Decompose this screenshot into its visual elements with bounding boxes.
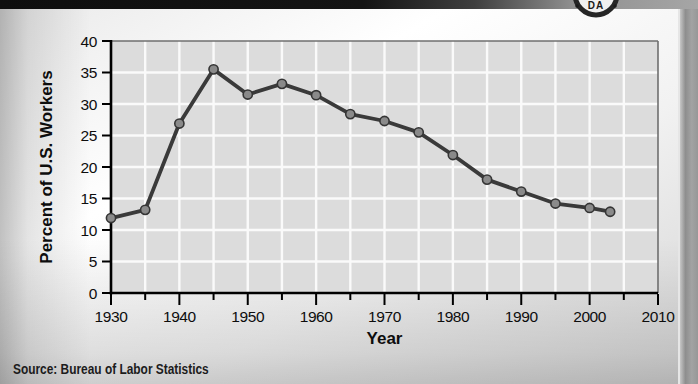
- x-tick-label: 1990: [505, 308, 539, 325]
- data-point: [312, 91, 321, 100]
- x-tick-label: 1940: [163, 308, 197, 325]
- x-tick-label: 2010: [642, 308, 676, 325]
- data-point: [585, 203, 594, 212]
- data-point: [606, 207, 615, 216]
- y-tick-label: 0: [89, 285, 98, 302]
- y-tick-label: 35: [81, 64, 97, 81]
- data-point: [414, 128, 423, 137]
- x-tick-label: 2000: [573, 308, 607, 325]
- data-point: [448, 150, 457, 159]
- y-tick-label: 20: [81, 159, 98, 176]
- data-point: [106, 213, 115, 222]
- union-membership-line-chart: 0510152025303540193019401950196019701980…: [0, 0, 698, 384]
- badge-dot-right: [613, 4, 616, 7]
- source-note: Source: Bureau of Labor Statistics: [13, 361, 209, 377]
- y-tick-label: 40: [81, 33, 98, 50]
- x-tick-label: 1980: [436, 308, 470, 325]
- badge-label: DA: [588, 0, 604, 11]
- data-stamp-badge: DA: [563, 0, 629, 26]
- x-tick-label: 1930: [95, 308, 129, 325]
- data-point: [243, 90, 252, 99]
- data-point: [346, 109, 355, 118]
- data-point: [141, 205, 150, 214]
- data-point: [517, 187, 526, 196]
- data-point: [209, 65, 218, 74]
- y-tick-label: 10: [81, 222, 98, 239]
- x-tick-label: 1960: [300, 308, 334, 325]
- x-tick-label: 1950: [231, 308, 265, 325]
- data-point: [551, 199, 560, 208]
- y-tick-label: 25: [81, 127, 97, 144]
- badge-dot-left: [575, 4, 578, 7]
- chart-figure-card: DA 0510152025303540193019401950196019701…: [0, 0, 698, 384]
- y-tick-label: 5: [89, 253, 97, 270]
- data-point: [380, 116, 389, 125]
- x-axis-title: Year: [367, 329, 403, 348]
- y-tick-label: 15: [81, 190, 97, 207]
- y-axis-title: Percent of U.S. Workers: [37, 70, 56, 263]
- y-tick-label: 30: [81, 96, 98, 113]
- data-point: [175, 119, 184, 128]
- x-tick-label: 1970: [368, 308, 402, 325]
- data-point: [482, 175, 491, 184]
- data-point: [277, 79, 286, 88]
